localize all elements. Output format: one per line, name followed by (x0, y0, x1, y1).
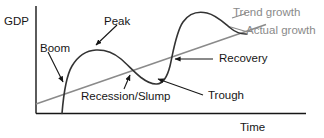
annotation-recession: Recession/Slump (81, 91, 170, 103)
legend-actual-growth: Actual growth (246, 25, 316, 37)
chart-canvas (0, 0, 324, 138)
annotation-boom: Boom (40, 43, 70, 55)
annotation-recovery: Recovery (219, 53, 268, 65)
annotation-peak: Peak (104, 16, 130, 28)
annotation-trough: Trough (208, 90, 244, 102)
legend-trend-growth: Trend growth (233, 7, 300, 19)
annotation-leaders (48, 25, 213, 95)
x-axis-label: Time (240, 122, 265, 134)
business-cycle-chart: GDP Time Boom Peak Recession/Slump Troug… (0, 0, 324, 138)
y-axis-label: GDP (4, 16, 29, 28)
